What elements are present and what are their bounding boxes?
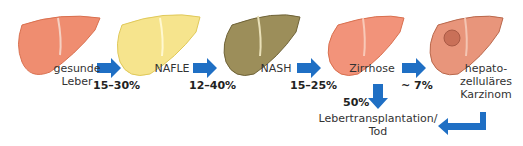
label-line: Karzinom — [453, 88, 519, 101]
label-line: hepato- — [453, 62, 519, 75]
label-line: gesunde — [52, 62, 102, 75]
rate-5: 50% — [343, 96, 369, 109]
arrow-down-icon — [368, 84, 388, 109]
arrow-3-icon — [297, 58, 321, 78]
label-line: Lebertransplantation/ — [318, 112, 438, 125]
arrow-return-icon — [438, 112, 486, 135]
stage-label-nash: NASH — [256, 62, 296, 75]
stage-label-nafle: NAFLE — [152, 62, 192, 75]
rate-1: 15–30% — [93, 79, 140, 92]
stage-label-hcc: hepato- zelluläres Karzinom — [453, 62, 519, 101]
label-line: zelluläres — [453, 75, 519, 88]
stage-label-cirrhosis: Zirrhose — [344, 62, 400, 75]
rate-3: 15–25% — [290, 79, 337, 92]
arrow-2-icon — [193, 58, 217, 78]
rate-4: ~ 7% — [401, 79, 433, 92]
label-line: Tod — [318, 125, 438, 138]
rate-2: 12–40% — [189, 79, 236, 92]
outcome-label: Lebertransplantation/ Tod — [318, 112, 438, 138]
arrow-4-icon — [402, 58, 426, 78]
